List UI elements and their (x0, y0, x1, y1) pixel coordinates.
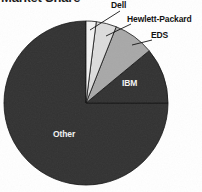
paper-grain-overlay (0, 0, 202, 192)
pie-label-other: Other (53, 130, 75, 139)
pie-label-hewlett-packard: Hewlett-Packard (127, 15, 192, 24)
pie-chart-figure: Market Share (0, 0, 202, 192)
pie-label-ibm: IBM (122, 79, 137, 88)
pie-chart-canvas (0, 0, 202, 192)
pie-label-dell: Dell (111, 1, 126, 10)
pie-label-eds: EDS (151, 31, 168, 40)
